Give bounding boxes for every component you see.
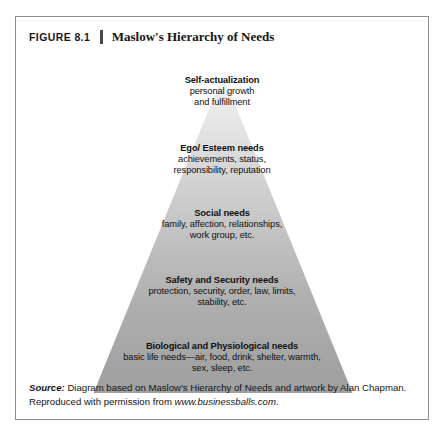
- tier-title: Ego/ Esteem needs: [16, 143, 428, 154]
- tier-title: Self-actualization: [16, 75, 428, 86]
- figure-number: FIGURE 8.1: [29, 31, 90, 43]
- tier-biological-physiological: Biological and Physiological needs basic…: [16, 341, 428, 373]
- tier-description: achievements, status, responsibility, re…: [16, 154, 428, 176]
- tier-ego-esteem: Ego/ Esteem needs achievements, status, …: [16, 143, 428, 175]
- figure-header: FIGURE 8.1 Maslow's Hierarchy of Needs: [16, 17, 428, 57]
- tier-description: family, affection, relationships, work g…: [16, 219, 428, 241]
- tier-description: personal growth and fulfillment: [16, 86, 428, 108]
- tier-description: basic life needs—air, food, drink, shelt…: [16, 352, 428, 374]
- maslow-pyramid-diagram: Self-actualization personal growth and f…: [16, 53, 428, 393]
- tier-title: Social needs: [16, 208, 428, 219]
- source-line-2-prefix: Reproduced with permission from: [29, 396, 175, 407]
- header-divider: [100, 30, 103, 44]
- page-title: Maslow's Hierarchy of Needs: [112, 29, 275, 45]
- source-line-2-suffix: .: [276, 396, 279, 407]
- tier-title: Safety and Security needs: [16, 275, 428, 286]
- source-url: www.businessballs.com: [175, 396, 276, 407]
- source-caption: Source: Diagram based on Maslow's Hierar…: [29, 381, 419, 409]
- tier-safety-security: Safety and Security needs protection, se…: [16, 275, 428, 307]
- tier-description: protection, security, order, law, limits…: [16, 286, 428, 308]
- tier-self-actualization: Self-actualization personal growth and f…: [16, 75, 428, 107]
- source-line-1: Diagram based on Maslow's Hierarchy of N…: [65, 382, 407, 393]
- tier-social: Social needs family, affection, relation…: [16, 208, 428, 240]
- figure-frame: FIGURE 8.1 Maslow's Hierarchy of Needs S…: [15, 16, 429, 420]
- tier-title: Biological and Physiological needs: [16, 341, 428, 352]
- source-label: Source:: [29, 382, 65, 393]
